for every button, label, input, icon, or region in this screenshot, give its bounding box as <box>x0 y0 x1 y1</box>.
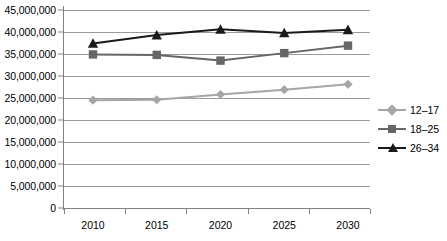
legend-marker-triangle-icon <box>388 143 398 152</box>
x-axis-tick <box>248 209 249 214</box>
data-point-marker <box>280 85 289 94</box>
data-point-marker <box>216 56 224 64</box>
y-axis-tick-label: 0 <box>50 202 56 214</box>
legend-swatch <box>378 121 406 137</box>
y-axis-tick-label: 5,000,000 <box>10 180 56 192</box>
x-axis-tick <box>370 209 371 214</box>
x-axis-line <box>64 208 370 209</box>
legend-swatch <box>378 102 406 118</box>
legend-swatch <box>378 140 406 156</box>
x-axis-tick-label: 2025 <box>273 219 296 231</box>
x-axis-tick-label: 2010 <box>81 219 104 231</box>
legend-marker-diamond-icon <box>386 104 397 115</box>
legend-item-1[interactable]: 12–17 <box>378 100 447 119</box>
series-1 <box>88 80 352 105</box>
legend-marker-square-icon <box>388 125 396 133</box>
data-point-marker <box>343 80 352 89</box>
x-axis-tick <box>125 209 126 214</box>
x-axis-tick <box>186 209 187 214</box>
y-axis-tick-label: 40,000,000 <box>4 26 56 38</box>
chart-legend: 12–1718–2526–34 <box>378 100 447 157</box>
data-point-marker <box>88 96 97 105</box>
plot-area <box>64 10 370 208</box>
x-axis-tick-label: 2030 <box>336 219 359 231</box>
y-axis-tick-label: 35,000,000 <box>4 48 56 60</box>
data-point-marker <box>153 51 161 59</box>
x-axis-tick-label: 2015 <box>145 219 168 231</box>
legend-label: 12–17 <box>406 104 439 116</box>
series-layer <box>64 10 370 208</box>
y-axis-tick-label: 25,000,000 <box>4 92 56 104</box>
x-axis-tick <box>309 209 310 214</box>
legend-item-3[interactable]: 26–34 <box>378 138 447 157</box>
series-3 <box>88 24 353 48</box>
x-axis-tick <box>64 209 65 214</box>
legend-label: 26–34 <box>406 142 439 154</box>
x-axis-tick-label: 2020 <box>209 219 232 231</box>
data-point-marker <box>280 49 288 57</box>
series-2 <box>89 41 352 64</box>
data-point-marker <box>216 90 225 99</box>
y-axis-tick-label: 30,000,000 <box>4 70 56 82</box>
y-axis-tick-label: 20,000,000 <box>4 114 56 126</box>
legend-label: 18–25 <box>406 123 439 135</box>
data-point-marker <box>152 95 161 104</box>
data-point-marker <box>89 50 97 58</box>
y-axis-tick-label: 45,000,000 <box>4 4 56 16</box>
line-chart: 05,000,00010,000,00015,000,00020,000,000… <box>0 0 447 241</box>
y-axis-labels: 05,000,00010,000,00015,000,00020,000,000… <box>0 0 64 241</box>
legend-item-2[interactable]: 18–25 <box>378 119 447 138</box>
y-axis-tick-label: 10,000,000 <box>4 158 56 170</box>
y-axis-tick-label: 15,000,000 <box>4 136 56 148</box>
data-point-marker <box>344 41 352 49</box>
